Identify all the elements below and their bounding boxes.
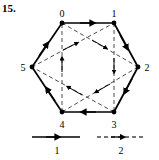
solid-edge-5-0 [32,23,62,67]
solid-edge-arrow [39,44,47,56]
vertex-label-1: 1 [112,8,117,19]
solid-edge-arrow [120,35,127,48]
legend-item-2: 2 [97,137,145,156]
vertex-0[interactable] [60,21,65,26]
solid-edge-group [32,23,138,112]
legend-item-1: 1 [32,137,80,156]
solid-edge-2-3 [114,67,138,112]
legend-label-1: 1 [55,145,60,156]
vertex-1[interactable] [112,21,117,26]
dashed-edge-arrow [68,87,82,95]
hexagon-graph: 0 1 2 3 4 5 1 2 [0,0,159,160]
legend-label-2: 2 [119,145,124,156]
solid-edge-4-5 [32,67,62,112]
vertex-5[interactable] [30,65,35,70]
vertex-group [30,21,141,115]
vertex-4[interactable] [60,110,65,115]
vertex-label-2: 2 [145,62,150,73]
vertex-label-4: 4 [60,119,65,130]
figure-container: 15. [0,0,159,160]
legend: 1 2 [32,137,145,156]
vertex-3[interactable] [112,110,117,115]
solid-edge-arrow [47,89,55,101]
solid-edge-arrow [125,79,132,92]
dashed-edge-3-5 [32,67,114,112]
dashed-edge-arrow [92,40,106,48]
vertex-label-0: 0 [60,8,65,19]
vertex-2[interactable] [136,65,141,70]
dashed-edge-arrow [96,84,110,92]
dashed-edge-arrow [63,43,77,50]
vertex-label-5: 5 [21,62,26,73]
vertex-label-3: 3 [112,119,117,130]
solid-edge-1-2 [114,23,138,67]
